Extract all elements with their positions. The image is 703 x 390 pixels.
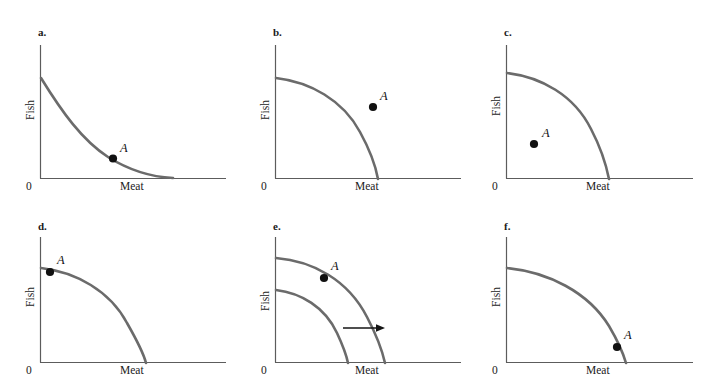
y-axis-label: Fish: [490, 278, 502, 316]
frontier-curve: [41, 78, 173, 178]
y-axis-label: Fish: [24, 91, 36, 129]
origin-label: 0: [26, 180, 32, 192]
origin-label: 0: [261, 180, 267, 192]
panel-letter-e: e.: [273, 220, 281, 232]
x-axis-label: Meat: [355, 180, 379, 192]
point-a-marker: [109, 154, 117, 162]
point-a-label: A: [380, 89, 388, 104]
x-axis-label: Meat: [120, 180, 144, 192]
x-axis-label: Meat: [355, 364, 379, 376]
point-a-label: A: [624, 328, 632, 343]
frontier-curve: [507, 73, 609, 179]
figure-canvas: a. A 0 Meat Fish b. A 0 Meat Fish: [0, 0, 703, 390]
y-axis-label: Fish: [24, 278, 36, 316]
point-a-marker: [320, 274, 328, 282]
frontier-curve: [276, 78, 378, 179]
panel-c: c. A 0 Meat Fish: [466, 0, 703, 195]
panel-letter-a: a.: [38, 26, 46, 38]
panel-letter-f: f.: [504, 220, 510, 232]
frontier-curve: [507, 268, 626, 363]
x-axis-label: Meat: [120, 364, 144, 376]
y-axis-label: Fish: [490, 87, 502, 125]
panel-a: a. A 0 Meat Fish: [0, 0, 235, 195]
point-a-marker: [613, 343, 621, 351]
point-a-label: A: [57, 253, 65, 268]
point-a-label: A: [331, 259, 339, 274]
panel-d: d. A 0 Meat Fish: [0, 195, 235, 390]
y-axis-label: Fish: [259, 282, 271, 320]
shift-arrow-icon: [343, 324, 385, 332]
origin-label: 0: [492, 364, 498, 376]
x-axis-label: Meat: [586, 180, 610, 192]
y-axis-label: Fish: [259, 91, 271, 129]
origin-label: 0: [26, 364, 32, 376]
origin-label: 0: [492, 180, 498, 192]
frontier-curve-inner: [276, 290, 348, 363]
x-axis-label: Meat: [586, 364, 610, 376]
point-a-label: A: [542, 126, 550, 141]
panel-letter-c: c.: [504, 26, 512, 38]
panel-e: e. A 0 Meat Fish: [235, 195, 470, 390]
point-a-marker: [369, 103, 377, 111]
panel-f: f. A 0 Meat Fish: [466, 195, 703, 390]
origin-label: 0: [261, 364, 267, 376]
panel-b: b. A 0 Meat Fish: [235, 0, 470, 195]
panel-letter-b: b.: [273, 26, 282, 38]
point-a-marker: [46, 268, 54, 276]
point-a-label: A: [120, 141, 128, 156]
frontier-curve: [41, 268, 146, 363]
panel-letter-d: d.: [38, 220, 47, 232]
point-a-marker: [530, 140, 538, 148]
